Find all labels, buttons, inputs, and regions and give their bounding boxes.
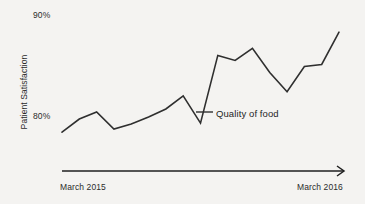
chart-plot-area [0, 0, 365, 204]
data-series-line-quality-of-food [62, 32, 339, 132]
chart-container: 90% 80% Patient Satisfaction March 2015 … [0, 0, 365, 204]
